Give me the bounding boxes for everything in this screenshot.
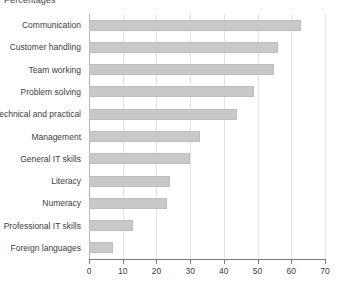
tick-mark-10 bbox=[123, 260, 124, 264]
bar-chart: Percentages CommunicationCustomer handli… bbox=[0, 0, 338, 282]
tick-label-60: 60 bbox=[279, 266, 303, 276]
bar bbox=[89, 131, 200, 142]
tick-mark-70 bbox=[325, 260, 326, 264]
tick-mark-50 bbox=[258, 260, 259, 264]
bar-row bbox=[89, 176, 325, 187]
bar bbox=[89, 20, 301, 31]
category-label: Literacy bbox=[51, 176, 81, 186]
category-label: Communication bbox=[22, 20, 81, 30]
category-label: Foreign languages bbox=[11, 243, 81, 253]
tick-label-20: 20 bbox=[144, 266, 168, 276]
tick-mark-60 bbox=[291, 260, 292, 264]
bar-row bbox=[89, 20, 325, 31]
category-label: Professional IT skills bbox=[4, 221, 81, 231]
bar bbox=[89, 176, 170, 187]
category-label: Team working bbox=[29, 65, 81, 75]
tick-label-50: 50 bbox=[246, 266, 270, 276]
bar-row bbox=[89, 109, 325, 120]
tick-mark-30 bbox=[190, 260, 191, 264]
tick-label-10: 10 bbox=[111, 266, 135, 276]
category-label: Customer handling bbox=[10, 42, 81, 52]
bar bbox=[89, 242, 113, 253]
tick-mark-40 bbox=[224, 260, 225, 264]
bar bbox=[89, 42, 278, 53]
bar bbox=[89, 198, 167, 209]
category-axis-labels: CommunicationCustomer handlingTeam worki… bbox=[0, 14, 85, 259]
plot-area bbox=[89, 14, 325, 259]
bar-row bbox=[89, 131, 325, 142]
category-label: Numeracy bbox=[42, 198, 81, 208]
bar bbox=[89, 220, 133, 231]
tick-label-70: 70 bbox=[313, 266, 337, 276]
bar bbox=[89, 86, 254, 97]
tick-label-40: 40 bbox=[212, 266, 236, 276]
category-label: Technical and practical bbox=[0, 109, 81, 119]
bar-row bbox=[89, 64, 325, 75]
category-label: Problem solving bbox=[21, 87, 81, 97]
category-label: General IT skills bbox=[20, 154, 81, 164]
chart-title: Percentages bbox=[4, 0, 56, 5]
tick-label-30: 30 bbox=[178, 266, 202, 276]
bar-row bbox=[89, 220, 325, 231]
bar-row bbox=[89, 86, 325, 97]
bar bbox=[89, 109, 237, 120]
tick-mark-0 bbox=[89, 260, 90, 264]
bar-row bbox=[89, 242, 325, 253]
bar bbox=[89, 64, 274, 75]
tick-label-0: 0 bbox=[77, 266, 101, 276]
bar-series bbox=[89, 14, 325, 259]
bar-row bbox=[89, 42, 325, 53]
gridline-70 bbox=[325, 14, 326, 259]
bar-row bbox=[89, 198, 325, 209]
bar-row bbox=[89, 153, 325, 164]
tick-mark-20 bbox=[156, 260, 157, 264]
category-label: Management bbox=[31, 132, 81, 142]
bar bbox=[89, 153, 190, 164]
